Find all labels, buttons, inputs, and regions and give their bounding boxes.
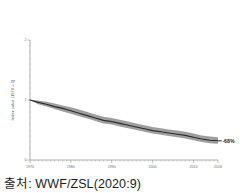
x-tick-label: 2016 <box>214 165 222 169</box>
y-axis-title: Index value (1970 = 1) <box>10 79 15 120</box>
x-tick-label: 2010 <box>189 165 197 169</box>
living-planet-index-chart: 012197019801990200020102016Index value (… <box>0 0 240 172</box>
endpoint-annotation-label: -68% <box>222 138 234 144</box>
x-tick-label: 1990 <box>108 165 116 169</box>
y-tick-label: 0 <box>24 158 26 162</box>
y-tick-label: 2 <box>24 38 26 42</box>
x-tick-label: 2000 <box>149 165 157 169</box>
x-tick-label: 1980 <box>67 165 75 169</box>
source-caption-text: 출처: WWF/ZSL(2020:9) <box>4 173 141 192</box>
x-tick-label: 1970 <box>26 165 34 169</box>
source-caption: 출처: WWF/ZSL(2020:9) <box>4 172 236 193</box>
confidence-band <box>30 100 218 144</box>
chart-figure: 012197019801990200020102016Index value (… <box>0 0 240 172</box>
y-tick-label: 1 <box>24 98 26 102</box>
